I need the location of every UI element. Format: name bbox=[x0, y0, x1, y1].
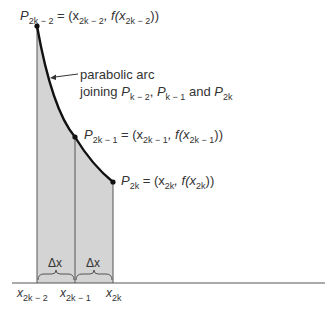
delta-x-right: Δx bbox=[86, 256, 100, 270]
label-p2k-1: P2k − 1 = (x2k − 1, f(x2k − 1)) bbox=[84, 128, 223, 145]
xtick-2k-2: x2k − 2 bbox=[17, 287, 48, 303]
point-p2k-1 bbox=[72, 134, 77, 139]
annotation-line2: joining Pk − 2, Pk − 1 and P2k bbox=[80, 85, 232, 102]
annotation-leader bbox=[55, 74, 78, 77]
xtick-2k: x2k bbox=[106, 287, 122, 303]
point-p2k bbox=[110, 179, 115, 184]
label-p2k-2: P2k − 2 = (x2k − 2, f(x2k − 2)) bbox=[20, 9, 159, 26]
annotation-line1: parabolic arc bbox=[80, 68, 154, 81]
xtick-2k-1: x2k − 1 bbox=[60, 287, 91, 303]
arrow-head-icon bbox=[50, 75, 56, 81]
delta-x-left: Δx bbox=[48, 256, 62, 270]
label-p2k: P2k = (x2k, f(x2k)) bbox=[121, 174, 214, 191]
